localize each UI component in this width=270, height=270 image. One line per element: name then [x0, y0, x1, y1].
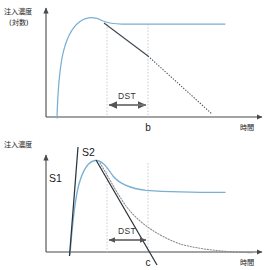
bottom-dst-label: DST [118, 226, 136, 236]
top-x-axis-label: 時間 [240, 123, 254, 132]
bottom-x-axis-label: 時間 [240, 258, 254, 267]
bottom-y-axis-label: 注入濃度 [4, 140, 32, 149]
bottom-slope-label-s1: S1 [49, 172, 62, 184]
bottom-concentration-curve [70, 160, 225, 254]
figure-canvas: DST b 注入濃度 (対数) 時間 [0, 0, 270, 270]
pharmacokinetic-figure: DST b 注入濃度 (対数) 時間 [0, 0, 270, 270]
top-tick-label-b: b [145, 122, 151, 133]
bottom-panel: DST S1 S2 c 注入濃度 時間 [4, 140, 262, 268]
top-terminal-slope-solid [104, 23, 148, 56]
bottom-tick-label-c: c [146, 257, 151, 268]
top-panel: DST b 注入濃度 (対数) 時間 [4, 7, 262, 133]
bottom-residual-decay-curve [100, 163, 252, 253]
top-terminal-slope-dotted [148, 56, 212, 114]
top-concentration-curve [57, 18, 225, 118]
top-y-axis-label-line2: (対数) [9, 18, 29, 27]
top-dst-label: DST [118, 91, 136, 101]
bottom-slope-label-s2: S2 [82, 146, 95, 158]
top-y-axis-label-line1: 注入濃度 [4, 7, 32, 16]
bottom-s1-tangent [70, 147, 79, 256]
